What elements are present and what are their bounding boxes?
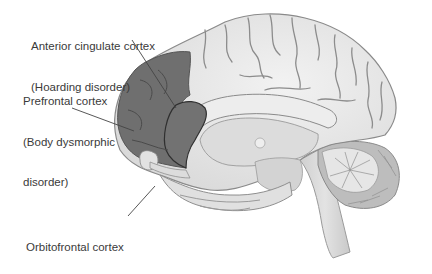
label-subtitle-cont: disorder)	[23, 176, 115, 190]
label-prefrontal: Prefrontal cortex (Body dysmorphic disor…	[23, 68, 115, 203]
leader-line-orbitofrontal	[128, 186, 155, 216]
label-title: Prefrontal cortex	[23, 95, 115, 109]
pineal	[255, 138, 265, 148]
label-title: Anterior cingulate cortex	[31, 40, 155, 54]
label-subtitle: (Body dysmorphic	[23, 136, 115, 150]
label-orbitofrontal: Orbitofrontal cortex (Obsessive-compulsi…	[26, 214, 145, 274]
label-title: Orbitofrontal cortex	[26, 241, 145, 255]
